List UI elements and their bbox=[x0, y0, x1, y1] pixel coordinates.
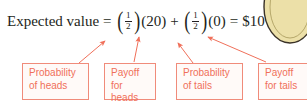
equation-label: Expected value bbox=[7, 13, 99, 30]
callout-probability-of-tails: Probability of tails bbox=[176, 63, 243, 100]
fraction-2: 1 2 bbox=[191, 11, 200, 32]
arrow-probability-heads bbox=[79, 41, 105, 63]
close-paren-2: ) bbox=[201, 10, 207, 32]
payoff-heads-value: (20) bbox=[141, 13, 166, 30]
numerator-2: 1 bbox=[193, 11, 198, 20]
arrow-probability-tails bbox=[178, 43, 193, 63]
close-paren-1: ) bbox=[134, 10, 140, 32]
plus-sign: + bbox=[166, 13, 182, 30]
fraction-1: 1 2 bbox=[124, 11, 133, 32]
arrow-payoff-tails bbox=[208, 37, 266, 62]
equals-sign-1: = bbox=[99, 13, 115, 30]
callout-probability-of-heads: Probability of heads bbox=[22, 63, 89, 100]
equals-sign-2: = bbox=[226, 13, 242, 30]
arrow-payoff-heads bbox=[134, 37, 139, 62]
expected-value-result: $10 bbox=[242, 13, 265, 30]
denominator-1: 2 bbox=[126, 22, 131, 31]
open-paren-1: ( bbox=[117, 10, 123, 32]
denominator-2: 2 bbox=[193, 22, 198, 31]
numerator-1: 1 bbox=[126, 11, 131, 20]
fraction-one-half-tails: ( 1 2 ) bbox=[183, 10, 209, 32]
callout-payoff-for-heads: Payoff for heads bbox=[104, 63, 156, 100]
figure-canvas: Expected value = ( 1 2 ) (20) + ( 1 2 ) … bbox=[0, 0, 307, 107]
payoff-tails-value: (0) bbox=[208, 13, 226, 30]
open-paren-2: ( bbox=[184, 10, 190, 32]
fraction-one-half-heads: ( 1 2 ) bbox=[116, 10, 142, 32]
callout-payoff-for-tails: Payoff for tails bbox=[258, 63, 307, 100]
expected-value-equation: Expected value = ( 1 2 ) (20) + ( 1 2 ) … bbox=[7, 6, 265, 36]
